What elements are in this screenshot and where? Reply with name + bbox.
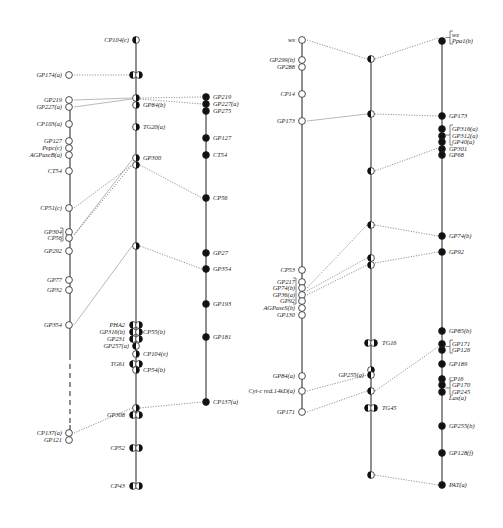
filled-marker-icon — [203, 94, 210, 101]
marker-label: GP219 — [213, 93, 232, 100]
homology-link — [74, 246, 132, 325]
marker-label: GP74(b) — [449, 232, 471, 240]
marker: CP51(c) — [40, 204, 72, 212]
homology-link — [74, 165, 132, 235]
half-filled-marker-icon — [133, 37, 140, 44]
marker-label: GP126 — [452, 346, 471, 353]
marker-label: GP92 — [449, 248, 465, 255]
chromosome-L2: CP104(c)GP84(b)TG20(a)GP300PHA2GP316(b)G… — [99, 36, 167, 489]
half-filled-marker-icon — [368, 372, 375, 379]
marker: GP189 — [439, 360, 468, 367]
homology-link — [375, 38, 438, 59]
homology-links — [307, 38, 438, 485]
open-marker-icon — [66, 235, 73, 242]
homology-link — [140, 97, 202, 98]
marker — [133, 162, 140, 169]
marker: GP308 — [107, 411, 143, 418]
marker-label: GP84(b) — [143, 101, 165, 109]
marker: GP77 — [47, 276, 72, 283]
homology-link — [74, 99, 132, 107]
marker-label: CP14 — [280, 90, 295, 97]
marker: CP52 — [110, 444, 142, 451]
half-filled-marker-icon — [368, 111, 375, 118]
marker — [133, 243, 140, 250]
marker-label: GP300 — [143, 154, 162, 161]
filled-marker-icon — [439, 38, 446, 45]
marker: GP130 — [277, 311, 306, 318]
open-marker-icon — [299, 285, 306, 292]
marker: GP84(a) — [273, 372, 306, 380]
marker: GP92 — [439, 248, 465, 255]
linkage-map-figure: GP174(a)GP219GP227(a)CP103(a)GP127Pepc(c… — [0, 0, 503, 528]
marker-label: GP173 — [449, 112, 467, 119]
marker: CP103(a) — [37, 120, 73, 128]
marker-label: GP308 — [107, 411, 126, 418]
marker: GP32 — [47, 286, 72, 293]
marker-label: TG61 — [110, 360, 125, 367]
marker-label: GP173 — [277, 117, 295, 124]
filled-marker-icon — [439, 113, 446, 120]
homology-link — [307, 225, 367, 288]
marker-label: Ppa1(b) — [451, 37, 473, 45]
open-marker-icon — [66, 287, 73, 294]
filled-marker-icon — [439, 389, 446, 396]
marker: GP173 — [277, 117, 306, 124]
marker: GP227(a) — [36, 103, 72, 111]
marker-label: GP32 — [47, 286, 63, 293]
marker-label: GP227(a) — [36, 103, 62, 111]
marker: CP104(e) — [133, 350, 168, 358]
marker-label: GP193 — [213, 300, 231, 307]
marker-label: TG20(a) — [143, 123, 165, 131]
open-marker-icon — [299, 91, 306, 98]
marker-label: PHA2 — [108, 321, 125, 328]
marker-label: GP170 — [452, 381, 471, 388]
marker-label: GP68 — [449, 151, 465, 158]
marker-label: Cyt-c red.14kD(a) — [248, 387, 295, 395]
marker: CP53 — [280, 266, 305, 273]
marker: GP255(b) — [439, 422, 475, 430]
marker: Cyt-c red.14kD(a) — [248, 387, 305, 395]
marker-label: CP54(b) — [143, 366, 165, 374]
half-filled-marker-icon — [368, 222, 375, 229]
marker: GP354 — [203, 265, 232, 272]
marker-label: CT54 — [48, 167, 63, 174]
homology-link — [375, 475, 438, 485]
chromosome-R2: TG16GP255(g)TG45 — [338, 56, 397, 479]
open-marker-icon — [299, 409, 306, 416]
open-marker-icon — [66, 104, 73, 111]
homology-link — [74, 98, 132, 100]
marker-label: Lax(a) — [448, 394, 466, 402]
filled-marker-icon — [439, 382, 446, 389]
marker: GP68 — [439, 151, 465, 158]
marker — [368, 255, 375, 262]
marker-label: GP189 — [449, 360, 468, 367]
filled-marker-icon — [439, 233, 446, 240]
open-marker-icon — [66, 437, 73, 444]
filled-marker-icon — [439, 139, 446, 146]
marker: wx — [288, 36, 306, 43]
filled-marker-icon — [203, 135, 210, 142]
filled-marker-icon — [439, 328, 446, 335]
marker: GP288 — [277, 63, 306, 70]
half-filled-marker-icon — [133, 367, 140, 374]
filled-marker-icon — [203, 250, 210, 257]
homology-link — [375, 148, 438, 171]
open-marker-icon — [66, 152, 73, 159]
filled-marker-icon — [439, 126, 446, 133]
marker-label: GP127 — [44, 137, 63, 144]
homology-link — [307, 114, 367, 121]
marker-label: CP53 — [280, 266, 295, 273]
marker: GP171 — [277, 408, 306, 415]
filled-marker-icon — [439, 423, 446, 430]
open-marker-icon — [299, 57, 306, 64]
half-filled-marker-icon — [133, 343, 140, 350]
marker-label: CP52 — [110, 444, 125, 451]
marker: GP181 — [203, 333, 232, 340]
half-filled-marker-icon — [133, 102, 140, 109]
marker — [368, 168, 375, 175]
marker-label: GP231 — [107, 335, 125, 342]
marker: CP56 — [203, 194, 229, 201]
marker: CT54 — [48, 167, 73, 174]
open-marker-icon — [299, 298, 306, 305]
half-filled-marker-icon — [368, 56, 375, 63]
